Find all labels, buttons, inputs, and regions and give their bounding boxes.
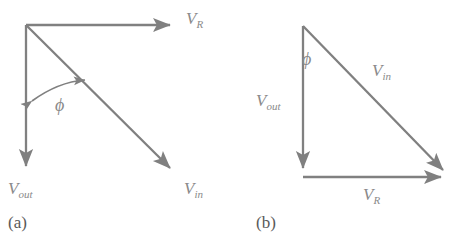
vector-vin-line (303, 26, 443, 170)
label-vr-main: V (186, 9, 196, 28)
label-vout-main: V (256, 91, 266, 110)
label-vout: Vout (256, 92, 280, 109)
label-vin: Vin (372, 62, 391, 79)
label-vr: VR (186, 10, 203, 27)
caption-a: (a) (8, 214, 27, 231)
panel-b: Vout Vin VR ϕ (b) (238, 0, 476, 246)
label-vout-sub: out (18, 188, 32, 200)
label-vin: Vin (184, 180, 203, 197)
panel-a: VR Vout Vin ϕ (a) (0, 0, 238, 246)
label-vr: VR (363, 186, 380, 203)
caption-b: (b) (256, 214, 276, 231)
label-vr-sub: R (373, 194, 380, 206)
label-vin-main: V (372, 61, 382, 80)
label-vin-main: V (184, 179, 194, 198)
label-vin-sub: in (194, 188, 203, 200)
label-vr-sub: R (196, 18, 203, 30)
vector-vin-line (26, 25, 170, 168)
figure-canvas: VR Vout Vin ϕ (a) Vout (0, 0, 476, 246)
label-vout: Vout (8, 180, 32, 197)
label-phi: ϕ (55, 96, 64, 114)
label-vout-sub: out (266, 100, 280, 112)
label-vout-main: V (8, 179, 18, 198)
label-phi: ϕ (302, 50, 311, 68)
label-vr-main: V (363, 185, 373, 204)
panel-b-vectors (238, 0, 476, 246)
panel-a-vectors (0, 0, 238, 246)
label-vin-sub: in (382, 70, 391, 82)
